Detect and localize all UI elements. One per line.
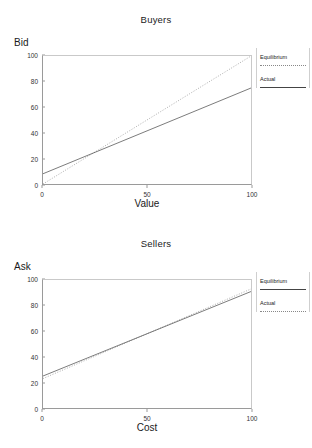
x-tick-label: 0 [40,191,44,198]
y-axis-title-buyers: Bid [14,37,28,48]
x-tick-label: 0 [40,415,44,422]
y-tick-label: 60 [31,328,38,335]
legend-swatch-solid-icon [260,289,306,292]
y-tick-labels-buyers: 100 80 60 40 20 0 [8,55,38,185]
y-axis-title-sellers: Ask [14,261,31,272]
plot-area-sellers [42,279,252,409]
legend-swatch-dotted-icon [260,65,306,68]
x-tick-label: 100 [247,191,258,198]
y-tick-label: 60 [31,104,38,111]
plot-lines-sellers [43,280,251,408]
legend-label: Actual [260,300,275,306]
legend-swatch-solid-icon [260,87,306,90]
x-axis-title-buyers: Value [42,198,252,209]
legend-item-actual: Actual [256,300,310,322]
legend-buyers: Equilibrium Actual [256,54,310,98]
y-tick-label: 0 [34,406,38,413]
chart-title-sellers: Sellers [0,238,312,249]
y-tick-label: 100 [27,276,38,283]
plot-lines-buyers [43,56,251,184]
legend-swatch-dotted-icon [260,311,306,314]
y-tick-label: 80 [31,302,38,309]
y-tick-label: 40 [31,130,38,137]
y-tick-label: 20 [31,156,38,163]
y-tick-label: 40 [31,354,38,361]
series-line-actual [43,88,251,174]
y-tick-label: 100 [27,52,38,59]
legend-label: Actual [260,76,275,82]
plot-area-buyers [42,55,252,185]
series-line-actual [43,292,251,376]
y-tick-labels-sellers: 100 80 60 40 20 0 [8,279,38,409]
x-axis-title-sellers: Cost [42,422,252,433]
legend-label: Equilibrium [260,54,287,60]
legend-item-equilibrium: Equilibrium [256,278,310,300]
x-tick-label: 50 [143,191,150,198]
y-tick-label: 20 [31,380,38,387]
legend-item-actual: Actual [256,76,310,98]
chart-panel-buyers: Buyers Bid 100 80 60 40 20 0 [0,0,312,224]
legend-sellers: Equilibrium Actual [256,278,310,322]
x-tick-label: 50 [143,415,150,422]
series-line-equilibrium [43,56,251,184]
x-tick-label: 100 [247,415,258,422]
y-tick-label: 80 [31,78,38,85]
legend-label: Equilibrium [260,278,287,284]
legend-item-equilibrium: Equilibrium [256,54,310,76]
figure-root: Buyers Bid 100 80 60 40 20 0 [0,0,312,448]
chart-panel-sellers: Sellers Ask 100 80 60 40 20 0 [0,224,312,448]
chart-title-buyers: Buyers [0,14,312,25]
y-tick-label: 0 [34,182,38,189]
